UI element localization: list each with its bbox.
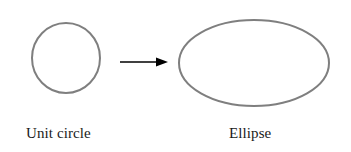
figure-container: Unit circle Ellipse <box>0 0 351 152</box>
unit-circle-label: Unit circle <box>26 126 91 141</box>
ellipse-label: Ellipse <box>229 126 271 141</box>
